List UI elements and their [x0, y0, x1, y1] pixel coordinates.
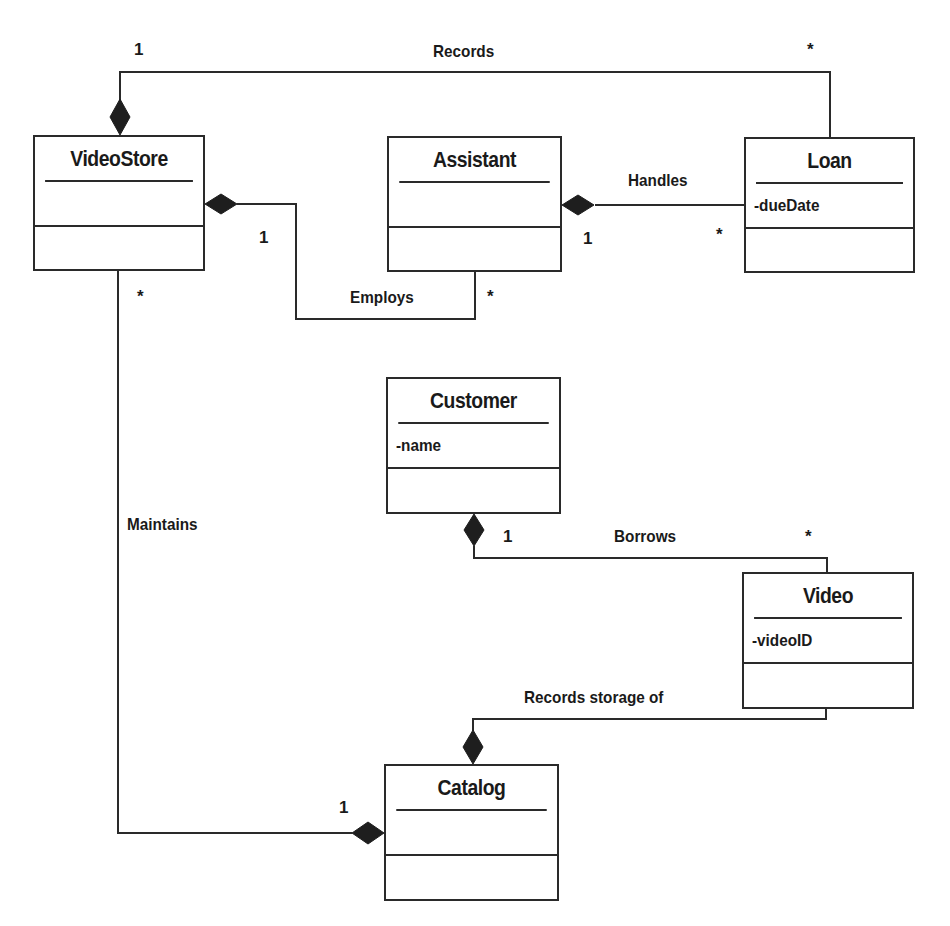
class-operations [35, 227, 203, 269]
class-assistant[interactable]: Assistant [387, 136, 562, 272]
class-name: Video [754, 574, 902, 619]
multiplicity-records-to: * [807, 40, 814, 60]
composition-diamond-icon [464, 514, 484, 546]
class-name: Assistant [399, 138, 549, 183]
maintains-connector [118, 270, 352, 833]
multiplicity-maintains-from: 1 [339, 798, 348, 818]
multiplicity-employs-from: 1 [259, 228, 268, 248]
composition-diamond-icon [352, 822, 384, 844]
class-loan[interactable]: Loan -dueDate [744, 137, 915, 273]
composition-diamond-icon [562, 195, 594, 215]
class-operations [389, 228, 560, 270]
records-storage-connector [473, 708, 826, 731]
class-operations [746, 229, 913, 271]
class-attributes: -dueDate [746, 184, 913, 229]
association-label-records: Records [433, 42, 494, 62]
class-operations [388, 469, 559, 511]
class-video[interactable]: Video -videoID [742, 572, 914, 709]
class-name: Customer [398, 379, 548, 424]
association-label-handles: Handles [628, 171, 688, 191]
multiplicity-handles-from: 1 [583, 229, 592, 249]
class-catalog[interactable]: Catalog [384, 764, 559, 901]
class-name: VideoStore [45, 137, 193, 182]
class-videostore[interactable]: VideoStore [33, 135, 205, 271]
multiplicity-borrows-from: 1 [503, 527, 512, 547]
class-customer[interactable]: Customer -name [386, 377, 561, 514]
multiplicity-employs-to: * [487, 287, 494, 307]
class-attributes: -videoID [744, 619, 912, 664]
class-attributes: -name [388, 424, 559, 469]
composition-diamond-icon [463, 730, 483, 764]
association-label-borrows: Borrows [614, 527, 676, 547]
class-name: Loan [756, 139, 903, 184]
association-label-maintains: Maintains [127, 515, 198, 535]
multiplicity-borrows-to: * [805, 527, 812, 547]
multiplicity-records-from: 1 [134, 40, 143, 60]
class-attributes [389, 183, 560, 228]
association-label-employs: Employs [350, 288, 414, 308]
association-label-records-storage: Records storage of [524, 688, 663, 708]
records-connector [120, 72, 830, 137]
class-operations [386, 856, 557, 898]
class-attributes [386, 811, 557, 856]
multiplicity-handles-to: * [716, 225, 723, 245]
composition-diamond-icon [205, 194, 237, 214]
class-attributes [35, 182, 203, 227]
multiplicity-maintains-to: * [137, 287, 144, 307]
composition-diamond-icon [110, 99, 130, 135]
class-operations [744, 664, 912, 706]
borrows-connector [474, 546, 827, 572]
class-name: Catalog [396, 766, 546, 811]
